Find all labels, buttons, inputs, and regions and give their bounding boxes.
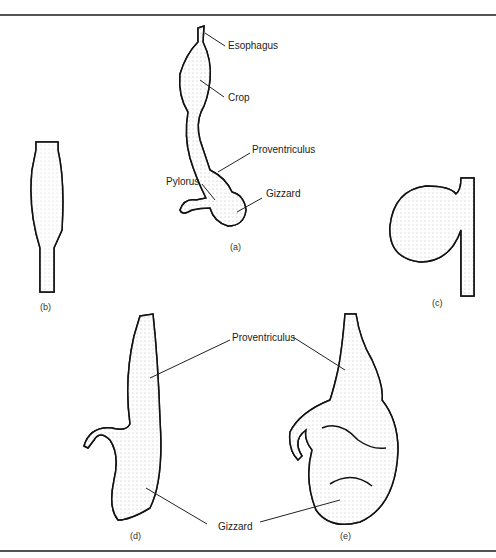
panel-b-drawing: [31, 142, 63, 292]
leader-esophagus: [205, 33, 225, 46]
caption-b: (b): [40, 302, 51, 312]
leader-proventriculus-a: [218, 153, 250, 172]
caption-a: (a): [230, 242, 241, 252]
label-crop: Crop: [228, 92, 250, 103]
digestive-tract-drawings: [0, 0, 496, 558]
caption-d: (d): [130, 531, 141, 541]
label-proventriculus-a: Proventriculus: [252, 144, 315, 155]
panel-c-drawing: [390, 178, 474, 296]
caption-c: (c): [432, 298, 443, 308]
panel-d-drawing: [84, 314, 161, 520]
panel-a-drawing: [180, 26, 246, 226]
label-proventriculus-shared: Proventriculus: [232, 332, 295, 343]
leader-gizzard-d: [146, 488, 207, 524]
label-pylorus: Pylorus: [166, 176, 199, 187]
leader-proventriculus-e: [293, 337, 345, 370]
leader-proventriculus-d: [150, 340, 230, 378]
caption-e: (e): [340, 531, 351, 541]
label-gizzard-shared: Gizzard: [218, 521, 252, 532]
label-esophagus: Esophagus: [228, 40, 278, 51]
label-gizzard-a: Gizzard: [266, 188, 300, 199]
